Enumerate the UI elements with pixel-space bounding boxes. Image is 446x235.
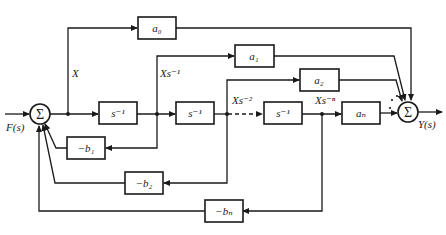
gain-b1-label: −b₁ xyxy=(78,142,95,154)
sum-symbol-output: Σ xyxy=(404,105,412,120)
gain-an-label: aₙ xyxy=(356,107,366,119)
gain-a2-label: a₂ xyxy=(314,74,324,86)
a0-output-line xyxy=(176,28,411,100)
a2-output-line xyxy=(339,80,402,101)
ellipsis-dots xyxy=(389,95,398,109)
input-label: F(s) xyxy=(5,121,25,134)
signal-x-label: X xyxy=(71,67,80,79)
integrator-1-label: s⁻¹ xyxy=(111,107,124,119)
signal-xn-label: Xs⁻ⁿ xyxy=(314,94,336,106)
integrator-n-label: s⁻¹ xyxy=(276,107,289,119)
signal-x2-label: Xs⁻² xyxy=(231,94,253,106)
gain-a1-label: a₁ xyxy=(249,50,259,62)
bn-feedback-line xyxy=(39,126,205,211)
output-label: Y(s) xyxy=(418,118,436,131)
signal-x1-label: Xs⁻¹ xyxy=(159,67,180,79)
input-summing-junction: Σ xyxy=(30,104,50,124)
gain-b2-label: −b₂ xyxy=(136,177,153,189)
output-summing-junction: Σ xyxy=(398,102,418,122)
b1-feedback-line xyxy=(45,124,67,148)
sum-symbol: Σ xyxy=(36,107,44,122)
integrator-2-label: s⁻¹ xyxy=(188,107,201,119)
gain-bn-label: −bₙ xyxy=(215,205,232,217)
gain-a0-label: a₀ xyxy=(152,22,162,34)
bn-branch-line xyxy=(243,114,322,211)
block-diagram: F(s) Σ X a₀ s⁻¹ Xs⁻¹ a₁ −b₁ s⁻¹ Xs⁻² a₂ … xyxy=(0,0,446,235)
